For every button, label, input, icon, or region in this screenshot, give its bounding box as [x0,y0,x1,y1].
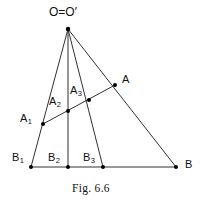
point-label-A-text: A [122,73,129,85]
vertex-point-A3 [87,98,91,102]
point-label-B-text: B [185,158,192,170]
vertex-point-B [174,165,178,169]
point-label-B2-text: B [48,151,55,163]
point-label-B: B [185,159,192,170]
point-label-B1: B1 [12,152,24,163]
point-label-A3: A3 [70,85,82,96]
geometry-canvas [0,0,202,202]
point-label-A3-subscript: 3 [78,89,82,98]
ray-O-B [68,29,176,167]
point-label-A3-text: A [70,84,77,96]
point-label-B3-subscript: 3 [91,156,95,165]
apex-label-O: O=O′ [49,6,77,18]
figure-caption: Fig. 6.6 [72,182,110,194]
vertex-point-A2 [66,109,70,113]
point-label-A1: A1 [20,113,32,124]
ray-O-B3 [68,29,103,167]
vertex-point-A1 [41,122,45,126]
point-label-A1-subscript: 1 [28,117,32,126]
point-label-A1-text: A [20,112,27,124]
point-label-B1-text: B [12,151,19,163]
point-label-B2: B2 [48,152,60,163]
point-label-A2-subscript: 2 [57,100,61,109]
point-label-B3: B3 [83,152,95,163]
vertex-point-B3 [101,165,105,169]
point-label-B1-subscript: 1 [20,156,24,165]
point-label-B2-subscript: 2 [56,156,60,165]
point-label-A2: A2 [49,96,61,107]
vertex-point-B2 [66,165,70,169]
vertex-point-A [113,83,117,87]
point-label-A2-text: A [49,95,56,107]
point-label-A: A [122,74,129,85]
point-label-B3-text: B [83,151,90,163]
vertex-point-O [66,27,70,31]
vertex-point-B1 [29,165,33,169]
figure-6-6: O=O′ AA1A2A3BB1B2B3 Fig. 6.6 [0,0,202,202]
